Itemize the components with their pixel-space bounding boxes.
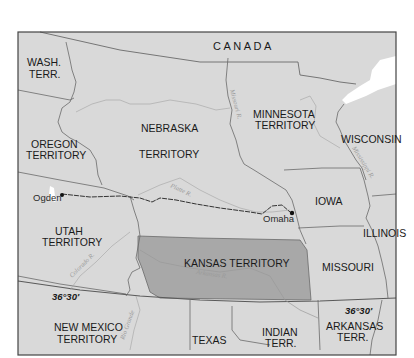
label-minnesota-2: TERRITORY bbox=[255, 119, 315, 131]
label-wash-terr-2: TERR. bbox=[29, 68, 61, 80]
label-wash-terr-1: WASH. bbox=[27, 56, 61, 68]
label-nebraska-2: TERRITORY bbox=[139, 148, 199, 160]
label-iowa: IOWA bbox=[315, 195, 343, 207]
label-texas: TEXAS bbox=[192, 334, 226, 346]
label-parallel-right: 36°30' bbox=[345, 305, 373, 316]
label-new-mexico-2: TERRITORY bbox=[57, 333, 117, 345]
territorial-map: CANADA WASH. TERR. OREGON TERRITORY NEBR… bbox=[0, 0, 414, 358]
label-indian-2: TERR. bbox=[265, 337, 297, 349]
label-missouri: MISSOURI bbox=[322, 261, 374, 273]
label-arkansas-2: TERR. bbox=[337, 331, 369, 343]
label-oregon-2: TERRITORY bbox=[26, 149, 86, 161]
label-parallel-left: 36°30' bbox=[52, 291, 80, 302]
label-omaha: Omaha bbox=[263, 213, 295, 224]
label-kansas: KANSAS TERRITORY bbox=[184, 257, 290, 269]
label-ogden: Ogden bbox=[33, 192, 62, 203]
label-utah-2: TERRITORY bbox=[42, 236, 102, 248]
label-nebraska-1: NEBRASKA bbox=[141, 122, 198, 134]
label-canada: CANADA bbox=[213, 40, 274, 52]
label-wisconsin: WISCONSIN bbox=[341, 133, 402, 145]
label-new-mexico-1: NEW MEXICO bbox=[54, 321, 123, 333]
label-illinois: ILLINOIS bbox=[363, 227, 406, 239]
